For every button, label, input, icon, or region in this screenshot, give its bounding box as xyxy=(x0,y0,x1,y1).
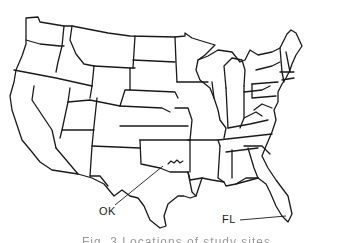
figure-caption: Fig. 3 Locations of study sites xyxy=(0,233,353,243)
ok-label: OK xyxy=(99,205,116,217)
fl-leader-line xyxy=(240,216,286,220)
fl-label: FL xyxy=(222,213,236,225)
ok-site-marker xyxy=(168,160,183,164)
us-state-map xyxy=(0,0,353,243)
state-borders xyxy=(10,17,302,228)
caption-text: Fig. 3 Locations of study sites xyxy=(0,235,353,243)
